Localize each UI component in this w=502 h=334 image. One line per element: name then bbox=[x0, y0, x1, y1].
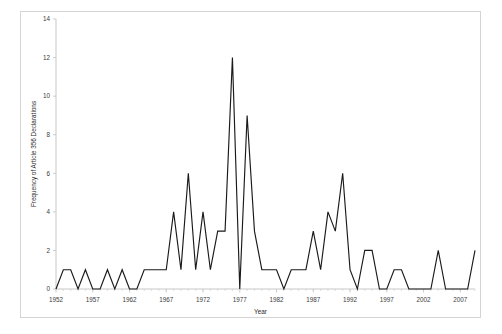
x-tick-label: 2002 bbox=[417, 296, 432, 303]
y-axis-ticks bbox=[53, 19, 56, 289]
y-tick-label: 2 bbox=[46, 247, 50, 254]
y-tick-label: 14 bbox=[43, 15, 51, 22]
x-tick-label: 1962 bbox=[123, 296, 138, 303]
line-chart-plot: 02468101214 1952195719621967197219771982… bbox=[0, 0, 502, 334]
y-tick-label: 6 bbox=[46, 170, 50, 177]
y-tick-label: 12 bbox=[43, 54, 51, 61]
x-tick-label: 1967 bbox=[159, 296, 174, 303]
x-tick-label: 1977 bbox=[233, 296, 248, 303]
x-tick-label: 2007 bbox=[453, 296, 468, 303]
y-tick-label: 8 bbox=[46, 131, 50, 138]
x-axis-title: Year bbox=[254, 308, 268, 315]
y-tick-label: 4 bbox=[46, 208, 50, 215]
y-axis-tick-labels: 02468101214 bbox=[43, 15, 51, 292]
y-axis-title: Frequency of Article 356 Declarations bbox=[30, 101, 38, 207]
x-tick-label: 1982 bbox=[270, 296, 285, 303]
x-tick-label: 1992 bbox=[343, 296, 358, 303]
x-tick-label: 1952 bbox=[49, 296, 64, 303]
x-tick-label: 1997 bbox=[380, 296, 395, 303]
x-axis-ticks bbox=[56, 289, 460, 293]
x-tick-label: 1987 bbox=[306, 296, 321, 303]
chart-figure: 02468101214 1952195719621967197219771982… bbox=[0, 0, 502, 334]
x-tick-label: 1972 bbox=[196, 296, 211, 303]
y-tick-label: 10 bbox=[43, 92, 51, 99]
y-tick-label: 0 bbox=[46, 285, 50, 292]
x-tick-label: 1957 bbox=[86, 296, 101, 303]
x-axis-tick-labels: 1952195719621967197219771982198719921997… bbox=[49, 296, 468, 303]
data-series-line bbox=[56, 58, 475, 289]
